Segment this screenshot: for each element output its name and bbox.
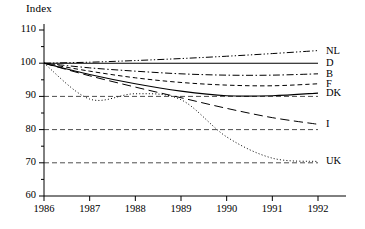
y-tick-label: 70 xyxy=(12,156,36,167)
series-label-uk: UK xyxy=(326,156,341,167)
x-tick-label: 1986 xyxy=(27,203,61,214)
x-tick-label: 1987 xyxy=(73,203,107,214)
series-label-nl: NL xyxy=(326,46,340,57)
x-tick-label: 1990 xyxy=(210,203,244,214)
x-tick-label: 1988 xyxy=(118,203,152,214)
series-line-i xyxy=(44,63,318,124)
series-line-dk xyxy=(44,63,318,96)
y-tick-label: 90 xyxy=(12,89,36,100)
x-tick-label: 1991 xyxy=(255,203,289,214)
series-line-nl xyxy=(44,51,318,64)
x-tick-label: 1989 xyxy=(164,203,198,214)
series-line-uk xyxy=(44,63,318,161)
plot-area xyxy=(0,0,365,229)
y-tick-label: 80 xyxy=(12,123,36,134)
series-label-dk: DK xyxy=(326,88,341,99)
y-tick-label: 110 xyxy=(12,23,36,34)
series-label-i: I xyxy=(326,119,330,130)
y-tick-label: 60 xyxy=(12,189,36,200)
x-tick-label: 1992 xyxy=(301,203,335,214)
line-chart: Index 6070809010011019861987198819891990… xyxy=(0,0,365,229)
y-tick-label: 100 xyxy=(12,56,36,67)
